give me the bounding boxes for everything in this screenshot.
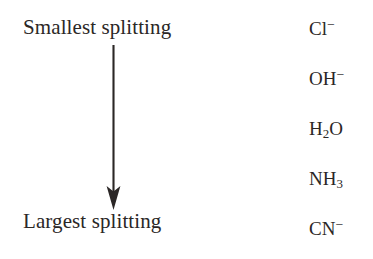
ligand-count-subscript: 3: [336, 176, 342, 191]
largest-splitting-label: Largest splitting: [23, 211, 161, 232]
ligand-charge-superscript: −: [327, 17, 335, 32]
ligand-formula-tail: O: [329, 118, 343, 139]
ligand-charge-superscript: −: [335, 217, 343, 232]
ligand-item-chloride: Cl−: [309, 19, 335, 38]
ligand-item-cyanide: CN−: [309, 219, 343, 238]
ligand-item-hydroxide: OH−: [309, 69, 344, 88]
ligand-formula-base: OH: [309, 68, 336, 89]
ligand-formula-base: NH: [309, 168, 336, 189]
smallest-splitting-label: Smallest splitting: [23, 17, 171, 38]
ligand-item-ammonia: NH3: [309, 169, 343, 188]
ligand-formula-base: CN: [309, 218, 335, 239]
spectrochemical-series-figure: Smallest splitting Largest splitting Cl−…: [0, 0, 373, 259]
ligand-charge-superscript: −: [336, 67, 344, 82]
ligand-formula-base: Cl: [309, 18, 327, 39]
ligand-formula-base: H: [309, 118, 323, 139]
downward-arrow-icon: [96, 38, 132, 216]
ligand-count-subscript: 2: [323, 126, 329, 141]
ligand-item-water: H2O: [309, 119, 343, 138]
